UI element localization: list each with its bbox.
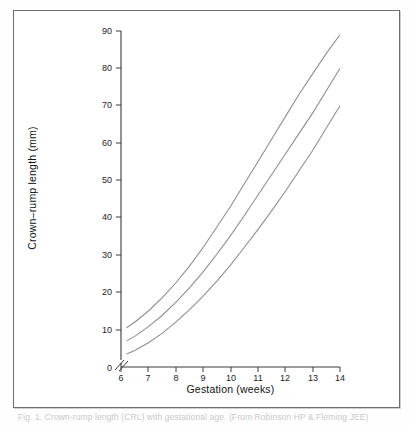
x-axis-label: Gestation (weeks) <box>121 383 340 395</box>
y-tick-label-zero: 0 <box>107 363 112 373</box>
axes-group <box>115 31 340 371</box>
curve-lower-limit <box>126 106 340 354</box>
x-tick-label: 7 <box>145 373 150 383</box>
chart-plot-area: 90 80 70 60 50 40 30 20 10 0 <box>0 0 411 426</box>
y-tick-label: 20 <box>102 287 112 297</box>
axis-break-slash-1 <box>115 360 124 370</box>
y-axis-label: Crown–rump length (mm) <box>26 93 38 283</box>
y-tick-label: 90 <box>102 26 112 36</box>
x-tick-label: 11 <box>253 373 262 383</box>
x-tick-label: 12 <box>280 373 290 383</box>
x-tick-group: 6 7 8 9 10 11 12 13 14 <box>118 367 345 383</box>
x-tick-label: 8 <box>173 373 178 383</box>
curve-upper-limit <box>126 35 340 328</box>
y-tick-label: 70 <box>102 100 112 110</box>
x-tick-label: 14 <box>335 373 345 383</box>
y-tick-label: 10 <box>102 325 112 335</box>
y-tick-label: 30 <box>102 250 112 260</box>
data-curves-group <box>126 35 340 354</box>
x-tick-label: 9 <box>200 373 205 383</box>
x-tick-label: 10 <box>226 373 236 383</box>
y-tick-label: 50 <box>102 175 112 185</box>
x-tick-label: 6 <box>118 373 123 383</box>
axis-break-slash-2 <box>119 361 128 371</box>
curve-mean <box>126 68 340 341</box>
y-tick-label: 80 <box>102 63 112 73</box>
chart-svg: 90 80 70 60 50 40 30 20 10 0 <box>0 0 411 426</box>
x-tick-label: 13 <box>308 373 318 383</box>
figure-caption: Fig. 1. Crown-rump length (CRL) with ges… <box>18 412 406 424</box>
y-tick-group: 90 80 70 60 50 40 30 20 10 0 <box>102 26 121 373</box>
y-tick-label: 40 <box>102 212 112 222</box>
y-tick-label: 60 <box>102 138 112 148</box>
figure-page: 90 80 70 60 50 40 30 20 10 0 <box>0 0 411 426</box>
